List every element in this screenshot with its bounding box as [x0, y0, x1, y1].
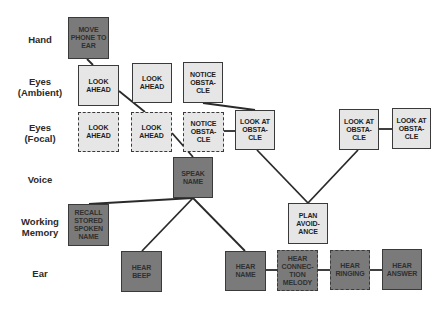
- box-hear-beep: HEAR BEEP: [121, 251, 162, 292]
- box-recall-stored-spoken-name: RECALL STORED SPOKEN NAME: [68, 204, 109, 246]
- box-label: LOOK AT OBSTA- CLE: [344, 118, 374, 142]
- box-look-at-obstacle-2: LOOK AT OBSTA- CLE: [339, 109, 379, 150]
- box-hear-connection-melody: HEAR CONNEC- TION MELODY: [277, 250, 318, 291]
- cognitive-task-network-diagram: HandEyes (Ambient)Eyes (Focal)VoiceWorki…: [0, 0, 448, 309]
- box-look-ahead-focal-1: LOOK AHEAD: [78, 112, 119, 152]
- connector-look-at-obstacle-2-to-plan-avoidance: [308, 150, 358, 203]
- box-plan-avoidance: PLAN AVOID- ANCE: [288, 203, 328, 244]
- box-move-phone-to-ear: MOVE PHONE TO EAR: [68, 17, 109, 59]
- box-look-ahead-ambient-1: LOOK AHEAD: [78, 65, 119, 106]
- connector-look-at-obstacle-1-to-plan-avoidance: [257, 150, 308, 203]
- box-label: NOTICE OBSTA- CLE: [190, 71, 216, 95]
- box-label: LOOK AT OBSTA- CLE: [396, 117, 426, 141]
- box-hear-name: HEAR NAME: [225, 251, 266, 291]
- box-look-ahead-focal-2: LOOK AHEAD: [131, 112, 172, 152]
- box-label: LOOK AHEAD: [140, 75, 164, 91]
- box-look-ahead-ambient-2: LOOK AHEAD: [132, 63, 172, 103]
- connector-speak-name-to-hear-beep: [142, 198, 193, 251]
- box-label: SPEAK NAME: [181, 170, 205, 186]
- box-hear-ringing: HEAR RINGING: [330, 250, 370, 290]
- box-label: HEAR NAME: [235, 263, 255, 279]
- box-label: MOVE PHONE TO EAR: [71, 26, 107, 50]
- box-label: HEAR RINGING: [335, 262, 364, 278]
- box-label: LOOK AHEAD: [86, 78, 110, 94]
- box-speak-name: SPEAK NAME: [173, 157, 213, 198]
- box-look-at-obstacle-3: LOOK AT OBSTA- CLE: [392, 108, 431, 149]
- box-label: LOOK AHEAD: [139, 124, 163, 140]
- box-notice-obstacle-focal: NOTICE OBSTA- CLE: [183, 112, 224, 152]
- row-label-eyes-ambient: Eyes (Ambient): [0, 76, 80, 98]
- box-notice-obstacle-ambient: NOTICE OBSTA- CLE: [183, 62, 223, 103]
- box-label: NOTICE OBSTA- CLE: [191, 120, 217, 144]
- box-look-at-obstacle-1: LOOK AT OBSTA- CLE: [235, 110, 275, 150]
- box-label: LOOK AT OBSTA- CLE: [240, 118, 270, 142]
- box-label: RECALL STORED SPOKEN NAME: [74, 209, 103, 241]
- connector-notice-obstacle-ambient-to-look-at-obstacle-1: [203, 103, 255, 110]
- row-label-ear: Ear: [0, 268, 80, 279]
- box-label: HEAR BEEP: [132, 264, 151, 280]
- connector-speak-name-to-hear-name: [193, 198, 245, 251]
- box-label: PLAN AVOID- ANCE: [296, 212, 319, 236]
- box-label: HEAR ANSWER: [387, 262, 418, 278]
- box-label: LOOK AHEAD: [86, 124, 110, 140]
- row-label-voice: Voice: [0, 174, 80, 185]
- box-hear-answer: HEAR ANSWER: [382, 249, 422, 290]
- row-label-eyes-focal: Eyes (Focal): [0, 122, 80, 144]
- box-label: HEAR CONNEC- TION MELODY: [282, 255, 314, 287]
